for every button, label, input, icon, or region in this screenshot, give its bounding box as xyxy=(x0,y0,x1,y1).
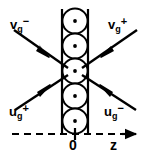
label-vg-minus: vg− xyxy=(10,16,29,34)
label-ug-plus: ug+ xyxy=(9,103,29,121)
ug-minus-sup: − xyxy=(117,102,123,114)
vg-plus-sup: + xyxy=(121,15,127,27)
ug-minus-base: u xyxy=(104,104,112,119)
field-out-of-page-symbols xyxy=(62,8,87,133)
ug-plus-sup: + xyxy=(22,102,28,114)
label-ug-minus: ug− xyxy=(104,103,124,121)
vg-minus-arrow xyxy=(36,46,50,58)
axis-z-label: z xyxy=(110,138,117,152)
axis-origin-label: 0 xyxy=(69,138,77,152)
figure-canvas: vg− vg+ ug+ ug− 0 z xyxy=(0,0,150,159)
vg-minus-sup: − xyxy=(23,15,29,27)
ug-plus-base: u xyxy=(9,104,17,119)
ug-plus-arrow xyxy=(37,84,51,97)
vg-plus-arrow xyxy=(100,46,114,58)
ug-minus-arrow xyxy=(99,84,113,97)
label-vg-plus: vg+ xyxy=(108,16,127,34)
